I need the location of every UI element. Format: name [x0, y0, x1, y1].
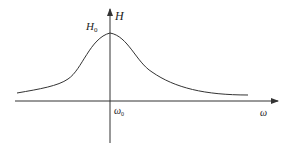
resonance-curve — [17, 33, 248, 95]
peak-label: H0 — [85, 20, 98, 34]
x-axis-label: ω — [260, 107, 267, 118]
y-axis-label: H — [114, 9, 125, 23]
resonance-curve-diagram: H H0 ω0 ω — [0, 0, 287, 152]
center-frequency-label: ω0 — [114, 105, 124, 117]
